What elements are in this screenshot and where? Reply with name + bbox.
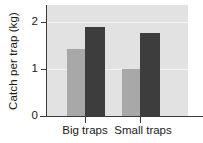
x-tick-mark-big-traps xyxy=(85,116,86,123)
x-tick-label-big-traps: Big traps xyxy=(55,124,115,136)
x-axis-line xyxy=(40,116,203,117)
bar-small-traps-light xyxy=(122,69,140,116)
y-tick-label-0: 0 xyxy=(8,109,38,121)
plot-area xyxy=(47,5,188,116)
x-tick-label-small-traps: Small traps xyxy=(108,124,178,136)
y-tick-mark-0 xyxy=(41,116,47,117)
gridline-2 xyxy=(47,22,188,23)
y-tick-mark-1 xyxy=(41,69,47,70)
x-tick-mark-small-traps xyxy=(140,116,141,123)
y-tick-mark-2 xyxy=(41,22,47,23)
bar-small-traps-dark xyxy=(140,33,160,116)
y-tick-label-2: 2 xyxy=(8,15,38,27)
bar-chart: Catch per trap (kg) 2 1 0 Big traps Smal… xyxy=(0,0,203,143)
bar-big-traps-dark xyxy=(85,27,105,116)
bar-big-traps-light xyxy=(67,49,85,116)
y-tick-label-1: 1 xyxy=(8,62,38,74)
